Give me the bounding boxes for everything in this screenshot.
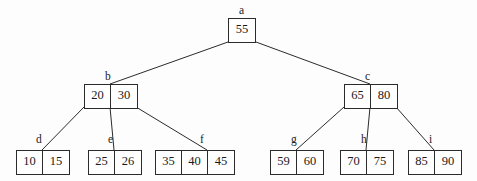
- node-label-h: h: [361, 133, 367, 145]
- tree-node-b: 2030: [84, 84, 138, 109]
- tree-node-i: 8590: [408, 150, 462, 175]
- key-cell: 85: [409, 151, 435, 174]
- key-cell: 10: [17, 151, 43, 174]
- tree-edge-b-f: [136, 107, 207, 150]
- key-cell: 60: [297, 151, 323, 174]
- key-cell: 55: [229, 19, 255, 42]
- node-label-i: i: [429, 133, 432, 145]
- tree-node-d: 1015: [16, 150, 70, 175]
- tree-node-g: 5960: [270, 150, 324, 175]
- node-label-e: e: [108, 133, 113, 145]
- node-label-c: c: [365, 70, 370, 82]
- key-cell: 40: [182, 151, 208, 174]
- tree-node-a: 55: [228, 18, 256, 43]
- key-cell: 30: [111, 85, 137, 108]
- key-cell: 65: [345, 85, 371, 108]
- tree-node-e: 2526: [88, 150, 142, 175]
- node-label-b: b: [105, 70, 111, 82]
- key-cell: 20: [85, 85, 111, 108]
- node-label-a: a: [239, 4, 244, 16]
- key-cell: 90: [435, 151, 461, 174]
- tree-node-c: 6580: [344, 84, 398, 109]
- key-cell: 70: [341, 151, 367, 174]
- key-cell: 75: [367, 151, 393, 174]
- tree-edge-a-b: [110, 42, 228, 84]
- key-cell: 25: [89, 151, 115, 174]
- btree-diagram: a55b2030c6580d1015e2526f354045g5960h7075…: [0, 0, 477, 181]
- tree-edge-a-c: [256, 42, 370, 84]
- key-cell: 80: [371, 85, 397, 108]
- tree-node-h: 7075: [340, 150, 394, 175]
- tree-edge-c-g: [296, 107, 344, 150]
- node-label-g: g: [291, 133, 297, 145]
- tree-edge-b-d: [42, 107, 84, 150]
- node-label-f: f: [200, 133, 204, 145]
- tree-node-f: 354045: [155, 150, 235, 175]
- node-label-d: d: [36, 133, 42, 145]
- key-cell: 26: [115, 151, 141, 174]
- key-cell: 35: [156, 151, 182, 174]
- key-cell: 15: [43, 151, 69, 174]
- key-cell: 59: [271, 151, 297, 174]
- key-cell: 45: [208, 151, 234, 174]
